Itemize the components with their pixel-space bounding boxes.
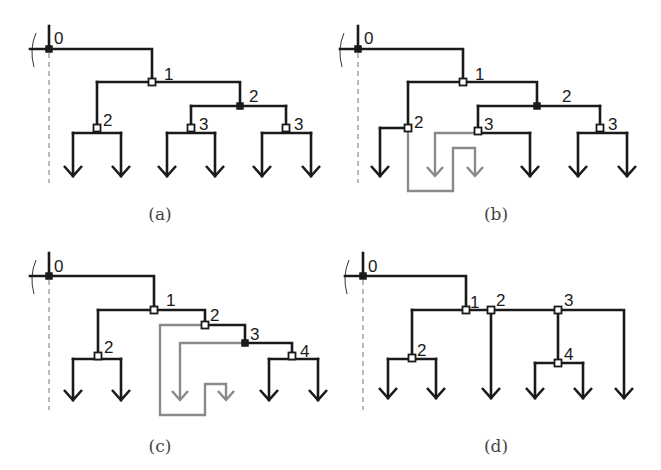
node-filled [534, 103, 540, 109]
tree-edge [245, 343, 292, 356]
node-open [283, 125, 290, 132]
node-open [409, 355, 416, 362]
node-label: 0 [368, 257, 377, 276]
node-label: 2 [562, 87, 571, 106]
node-open [149, 79, 156, 86]
panel-caption: (b) [484, 204, 508, 224]
node-label: 4 [564, 345, 573, 364]
node-label: 3 [484, 115, 493, 134]
node-open [597, 125, 604, 132]
node-label: 2 [417, 341, 426, 360]
panel-caption: (d) [484, 436, 508, 456]
node-label: 1 [166, 291, 175, 310]
node-filled [46, 46, 52, 52]
node-label: 2 [249, 87, 258, 106]
node-label: 1 [164, 65, 173, 84]
node-label: 1 [470, 293, 479, 312]
node-label: 2 [414, 113, 423, 132]
panel-a: 012233(a) [30, 26, 320, 224]
node-filled [242, 340, 248, 346]
node-open [151, 307, 158, 314]
node-label: 3 [199, 115, 208, 134]
tree-edge [30, 49, 152, 82]
tree-edge [408, 82, 537, 106]
node-open [95, 353, 102, 360]
node-label: 3 [250, 325, 259, 344]
node-open [460, 79, 467, 86]
node-open [555, 307, 562, 314]
node-open [405, 125, 412, 132]
node-open [463, 307, 470, 314]
panel-d: 012324(d) [345, 253, 633, 456]
gray-edge [160, 325, 226, 415]
node-filled [355, 46, 361, 52]
gray-edge [180, 343, 245, 400]
node-label: 0 [54, 257, 63, 276]
node-label: 2 [104, 338, 113, 357]
node-label: 4 [300, 342, 309, 361]
tree-edge [205, 325, 245, 343]
panel-c: 012234(c) [30, 253, 327, 456]
node-label: 2 [210, 306, 219, 325]
node-label: 3 [608, 115, 617, 134]
tree-edge [412, 310, 624, 398]
node-filled [46, 273, 52, 279]
node-filled [237, 103, 243, 109]
node-label: 1 [475, 65, 484, 84]
panel-caption: (c) [149, 436, 172, 456]
panel-caption: (a) [148, 204, 171, 224]
node-label: 0 [54, 29, 63, 48]
node-open [94, 125, 101, 132]
panel-b: 012233(b) [340, 26, 636, 224]
gray-edge [408, 128, 475, 191]
node-open [188, 125, 195, 132]
node-open [202, 322, 209, 329]
node-filled [360, 273, 366, 279]
node-open [555, 360, 562, 367]
node-label: 2 [496, 291, 505, 310]
node-label: 3 [294, 115, 303, 134]
tree-edge [97, 82, 240, 106]
node-label: 3 [564, 291, 573, 310]
node-open [289, 353, 296, 360]
tree-diagram-canvas: 012233(a)012233(b)012234(c)012324(d) [0, 0, 661, 470]
node-open [475, 128, 482, 135]
node-label: 2 [103, 111, 112, 130]
node-label: 0 [364, 29, 373, 48]
node-open [488, 307, 495, 314]
